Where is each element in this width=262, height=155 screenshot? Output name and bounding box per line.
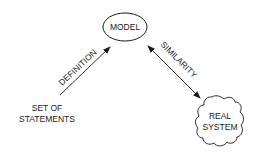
- similarity-label: SIMILARITY: [159, 39, 200, 80]
- statements-label-line2: STATEMENTS: [19, 114, 75, 124]
- real-system-node: REAL SYSTEM: [195, 96, 243, 146]
- real-system-label-line1: REAL: [209, 111, 231, 121]
- statements-node: SET OF STATEMENTS: [19, 103, 75, 124]
- model-node: MODEL: [103, 13, 147, 41]
- definition-label: DEFINITION: [57, 47, 99, 87]
- statements-label-line1: SET OF: [32, 103, 63, 113]
- definition-edge: DEFINITION: [57, 47, 110, 95]
- model-label: MODEL: [110, 22, 141, 32]
- real-system-label-line2: SYSTEM: [203, 122, 238, 132]
- similarity-edge: SIMILARITY: [148, 39, 200, 98]
- diagram-canvas: MODEL DEFINITION SIMILARITY SET OF STATE…: [0, 0, 262, 155]
